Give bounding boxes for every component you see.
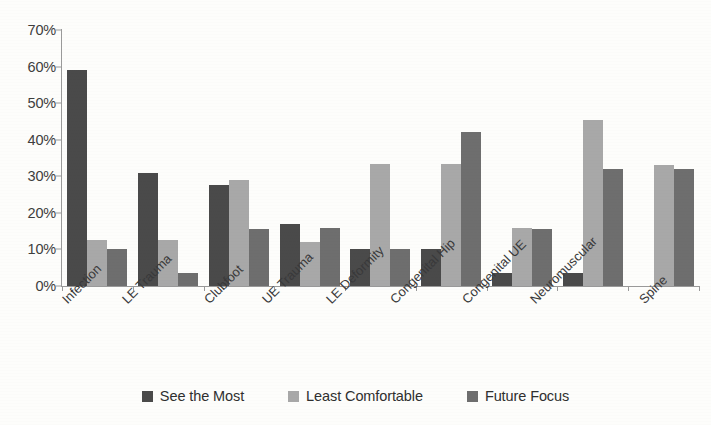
- y-axis-tick-label: 30%: [10, 168, 56, 184]
- bar: [107, 249, 127, 286]
- legend-item: Least Comfortable: [288, 388, 423, 404]
- x-axis-tick-mark: [204, 286, 205, 291]
- y-axis-tick-label: 20%: [10, 205, 56, 221]
- bar-group: [628, 30, 699, 286]
- bar-group: [133, 30, 204, 286]
- legend-swatch-icon: [288, 391, 299, 402]
- y-axis-tick-label: 0%: [10, 278, 56, 294]
- bar: [441, 164, 461, 287]
- bar: [320, 228, 340, 287]
- x-axis-tick-mark: [557, 286, 558, 291]
- chart-legend: See the MostLeast ComfortableFuture Focu…: [0, 388, 711, 404]
- legend-label: Least Comfortable: [306, 388, 423, 404]
- bar-chart: 0%10%20%30%40%50%60%70% InfectionLE Trau…: [0, 0, 711, 425]
- y-axis-tick-label: 70%: [10, 22, 56, 38]
- y-axis-tick-mark: [56, 30, 61, 31]
- bar: [583, 120, 603, 286]
- legend-swatch-icon: [467, 391, 478, 402]
- y-axis-tick-mark: [56, 139, 61, 140]
- x-axis-tick-mark: [628, 286, 629, 291]
- bar-group: [62, 30, 133, 286]
- x-axis-tick-mark: [699, 286, 700, 291]
- legend-item: See the Most: [142, 388, 244, 404]
- bar: [461, 132, 481, 286]
- bar: [603, 169, 623, 286]
- y-axis-tick-mark: [56, 286, 61, 287]
- bar: [370, 164, 390, 287]
- y-axis-ticks: 0%10%20%30%40%50%60%70%: [0, 0, 56, 425]
- bar: [674, 169, 694, 286]
- bar: [67, 70, 87, 286]
- y-axis-tick-mark: [56, 66, 61, 67]
- legend-swatch-icon: [142, 391, 153, 402]
- bar: [178, 273, 198, 286]
- bar-group: [204, 30, 275, 286]
- y-axis-tick-label: 40%: [10, 132, 56, 148]
- y-axis-tick-label: 60%: [10, 59, 56, 75]
- y-axis-tick-label: 50%: [10, 95, 56, 111]
- y-axis-tick-mark: [56, 176, 61, 177]
- legend-item: Future Focus: [467, 388, 569, 404]
- legend-label: See the Most: [160, 388, 244, 404]
- x-axis-line: [61, 286, 699, 287]
- bar: [654, 165, 674, 286]
- y-axis-tick-mark: [56, 212, 61, 213]
- bar: [249, 229, 269, 286]
- bar-group: [274, 30, 345, 286]
- y-axis-tick-mark: [56, 249, 61, 250]
- legend-label: Future Focus: [485, 388, 569, 404]
- y-axis-tick-label: 10%: [10, 241, 56, 257]
- y-axis-tick-mark: [56, 103, 61, 104]
